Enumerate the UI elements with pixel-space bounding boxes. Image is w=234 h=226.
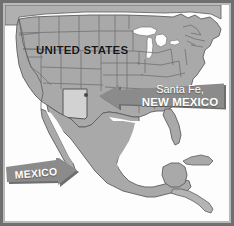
marker-santa-fe[interactable] <box>84 93 88 97</box>
callout-santa-fe-line2: NEW MEXICO <box>137 96 223 109</box>
callout-santa-fe-line1: Santa Fe, <box>137 83 223 96</box>
callout-santa-fe[interactable]: Santa Fe, NEW MEXICO <box>99 81 227 112</box>
map-figure: UNITED STATES Santa Fe, NEW MEXICO MEXIC… <box>0 0 234 226</box>
callout-santa-fe-text: Santa Fe, NEW MEXICO <box>137 83 223 108</box>
label-united-states: UNITED STATES <box>36 44 128 56</box>
callout-mexico[interactable]: MEXICO <box>6 158 80 190</box>
yucatan-peninsula <box>162 163 187 187</box>
